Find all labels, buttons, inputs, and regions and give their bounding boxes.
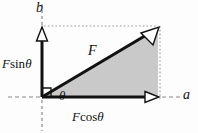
vertical-vector-arrowhead-icon — [37, 27, 48, 41]
vertical-component-label-fn: sin — [10, 56, 25, 71]
axis-label-b: b — [36, 1, 43, 15]
vertical-component-label-F: F — [2, 56, 10, 71]
horizontal-component-label-angle: θ — [97, 109, 103, 124]
vertical-component-label-angle: θ — [25, 56, 31, 71]
angle-label-theta: θ — [59, 89, 65, 102]
force-vector-label: F — [88, 44, 97, 58]
vector-diagram: b a F θ Fsinθ Fcosθ — [0, 0, 198, 133]
horizontal-component-label-fn: cos — [80, 109, 97, 124]
vertical-component-label: Fsinθ — [2, 57, 32, 70]
horizontal-component-label-F: F — [72, 109, 80, 124]
axis-label-a: a — [183, 88, 190, 102]
horizontal-component-label: Fcosθ — [72, 110, 104, 123]
